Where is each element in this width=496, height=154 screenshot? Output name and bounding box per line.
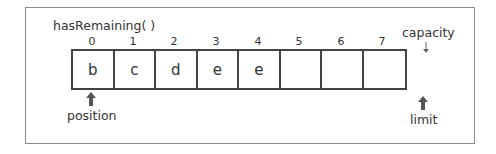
cell-index: 6 [331,35,351,48]
capacity-label: capacity [402,25,455,40]
buffer-cell: e [198,51,240,88]
cell-index: 4 [248,35,268,48]
buffer-cell: d [156,51,198,88]
limit-label: limit [410,112,438,127]
cell-index: 5 [289,35,309,48]
buffer-cell [281,51,323,88]
buffer-cell [364,51,406,88]
thick-up-arrow-icon [86,92,96,106]
thick-up-arrow-icon [418,96,428,110]
cell-index: 2 [164,35,184,48]
position-label: position [67,108,117,123]
thin-down-arrow-icon [422,42,430,53]
cell-index: 1 [123,35,143,48]
buffer-cell: e [239,51,281,88]
buffer-cell: b [73,51,115,88]
cell-index: 7 [372,35,392,48]
cell-index: 0 [82,35,102,48]
buffer-cell [322,51,364,88]
buffer-cell: c [115,51,157,88]
diagram-title: hasRemaining( ) [53,18,155,33]
cell-index: 3 [206,35,226,48]
buffer-array: b c d e e [71,49,407,90]
